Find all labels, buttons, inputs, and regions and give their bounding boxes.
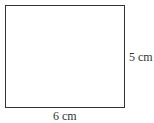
- width-label: 6 cm: [53, 110, 77, 122]
- rectangle-shape: [5, 5, 125, 108]
- height-label: 5 cm: [129, 51, 153, 63]
